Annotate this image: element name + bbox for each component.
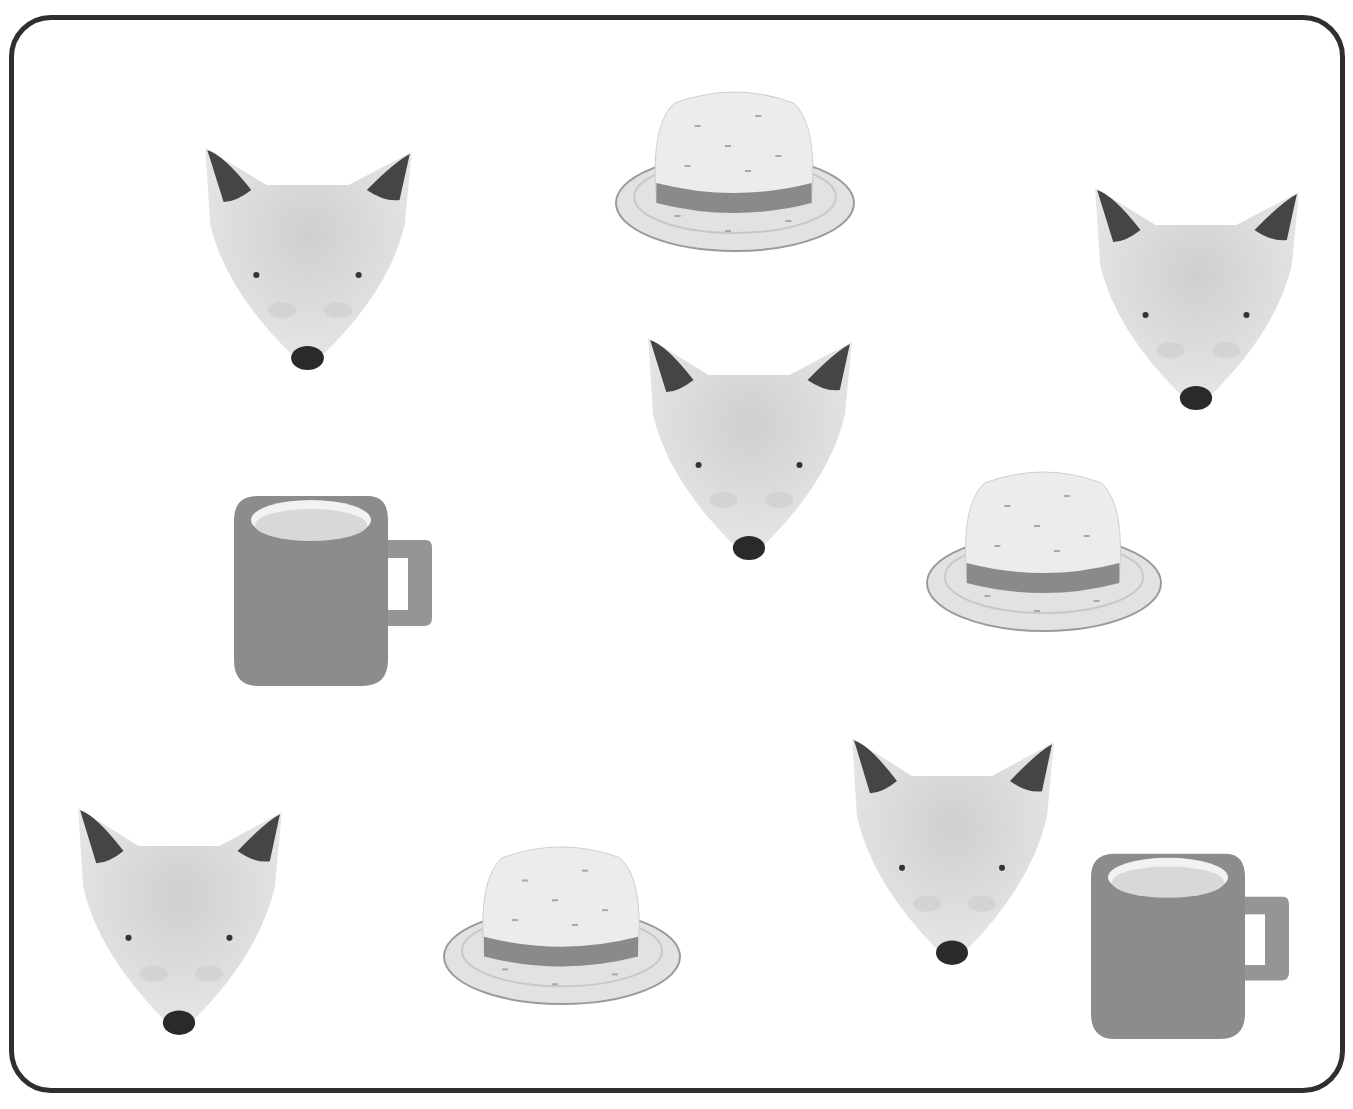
mug-item xyxy=(1085,848,1290,1043)
mug-icon xyxy=(1085,848,1290,1043)
hat-item xyxy=(614,85,856,255)
fox-icon xyxy=(638,330,860,565)
fox-item xyxy=(195,140,420,375)
hat-icon xyxy=(925,465,1163,635)
fox-nose xyxy=(733,536,765,560)
mug-drink xyxy=(255,509,367,541)
hat-icon xyxy=(614,85,856,255)
fox-nose xyxy=(291,346,324,370)
hat-item xyxy=(442,840,682,1008)
fox-icon xyxy=(842,730,1062,970)
fox-item xyxy=(638,330,860,565)
fox-nose xyxy=(163,1010,195,1035)
fox-nose xyxy=(936,940,968,965)
hat-icon xyxy=(442,840,682,1008)
mug-drink xyxy=(1112,867,1224,898)
fox-item xyxy=(842,730,1062,970)
fox-item xyxy=(68,800,290,1040)
mug-icon xyxy=(228,490,433,690)
mug-item xyxy=(228,490,433,690)
fox-item xyxy=(1085,180,1307,415)
fox-nose xyxy=(1180,386,1212,410)
fox-icon xyxy=(68,800,290,1040)
fox-icon xyxy=(195,140,420,375)
fox-icon xyxy=(1085,180,1307,415)
hat-item xyxy=(925,465,1163,635)
